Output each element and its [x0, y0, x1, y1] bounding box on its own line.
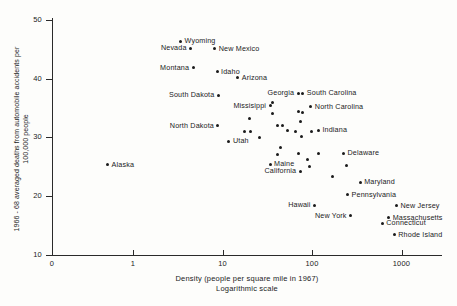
data-point-unlabeled-19 — [306, 158, 309, 161]
data-point-unlabeled-0 — [271, 101, 274, 104]
data-point-indiana — [317, 129, 320, 132]
x-tick-1000 — [402, 250, 403, 256]
x-axis-title: Density (people per square mile in 1967)… — [52, 274, 442, 294]
data-point-north-dakota — [216, 124, 219, 127]
data-point-utah — [227, 140, 230, 143]
point-label-new-mexico: New Mexico — [219, 44, 260, 53]
data-point-georgia — [297, 92, 300, 95]
data-point-unlabeled-3 — [271, 112, 274, 115]
point-label-north-dakota: North Dakota — [0, 121, 214, 130]
point-label-wyoming: Wyoming — [185, 36, 216, 45]
y-tick-label-10: 10 — [22, 250, 42, 259]
data-point-delaware — [342, 152, 345, 155]
data-point-arizona — [236, 76, 239, 79]
data-point-unlabeled-18 — [317, 152, 320, 155]
x-tick-label-100: 100 — [297, 259, 327, 268]
point-label-montana: Montana — [0, 63, 189, 72]
x-tick-10 — [223, 250, 224, 256]
data-point-idaho — [216, 70, 219, 73]
data-point-unlabeled-7 — [281, 124, 284, 127]
point-label-arizona: Arizona — [242, 73, 267, 82]
data-point-unlabeled-14 — [258, 136, 261, 139]
data-point-unlabeled-15 — [279, 146, 282, 149]
data-point-pennsylvania — [346, 193, 349, 196]
x-tick-label-1000: 1000 — [387, 259, 417, 268]
y-tick-10 — [46, 255, 53, 256]
y-tick-30 — [46, 137, 53, 138]
data-point-montana — [192, 66, 195, 69]
data-point-unlabeled-22 — [331, 175, 334, 178]
x-tick-label-10: 10 — [208, 259, 238, 268]
x-tick-label-1: 1 — [118, 259, 148, 268]
data-point-unlabeled-6 — [276, 124, 279, 127]
point-label-delaware: Delaware — [348, 148, 380, 157]
point-label-pennsylvania: Pennsylvania — [352, 190, 397, 199]
point-label-rhode-island: Rhode Island — [398, 230, 442, 239]
y-tick-label-50: 50 — [22, 15, 42, 24]
point-label-nevada: Nevada — [0, 43, 187, 52]
data-point-unlabeled-20 — [308, 165, 311, 168]
x-tick-1 — [133, 250, 134, 256]
data-point-unlabeled-1 — [297, 110, 300, 113]
data-point-unlabeled-21 — [345, 164, 348, 167]
point-label-south-carolina: South Carolina — [307, 88, 357, 97]
point-label-connecticut: Connecticut — [386, 218, 426, 227]
data-point-unlabeled-8 — [243, 130, 246, 133]
data-point-maryland — [359, 181, 362, 184]
data-point-south-carolina — [301, 92, 304, 95]
data-point-new-york — [349, 214, 352, 217]
data-point-new-jersey — [395, 204, 398, 207]
data-point-unlabeled-2 — [301, 111, 304, 114]
y-tick-50 — [46, 20, 53, 21]
data-point-unlabeled-13 — [300, 135, 303, 138]
scatter-plot: 5040302010 01101001000 1966 - 68 average… — [0, 0, 457, 306]
point-label-maryland: Maryland — [364, 177, 395, 186]
data-point-unlabeled-10 — [286, 129, 289, 132]
point-label-hawaii: Hawaii — [0, 200, 311, 209]
y-tick-40 — [46, 79, 53, 80]
data-point-unlabeled-9 — [249, 130, 252, 133]
data-point-unlabeled-4 — [248, 117, 251, 120]
data-point-unlabeled-16 — [276, 153, 279, 156]
data-point-nevada — [189, 47, 192, 50]
data-point-unlabeled-5 — [299, 120, 302, 123]
point-label-california: California — [0, 166, 296, 175]
x-tick-label-0: 0 — [37, 259, 67, 268]
point-label-new-jersey: New Jersey — [401, 201, 440, 210]
data-point-california — [299, 170, 302, 173]
data-point-unlabeled-12 — [310, 130, 313, 133]
data-point-hawaii — [313, 204, 316, 207]
data-point-north-carolina — [309, 105, 312, 108]
point-label-idaho: Idaho — [221, 67, 240, 76]
x-axis-line — [52, 255, 442, 256]
data-point-unlabeled-11 — [294, 130, 297, 133]
x-tick-100 — [312, 250, 313, 256]
point-label-georgia: Georgia — [0, 88, 294, 97]
point-label-indiana: Indiana — [322, 125, 347, 134]
y-tick-20 — [46, 196, 53, 197]
data-point-unlabeled-17 — [297, 152, 300, 155]
point-label-utah: Utah — [233, 136, 249, 145]
data-point-connecticut — [381, 222, 384, 225]
point-label-missisippi: Missisippi — [0, 101, 266, 110]
data-point-new-mexico — [213, 47, 216, 50]
data-point-missisippi — [269, 104, 272, 107]
point-label-new-york: New York — [0, 211, 347, 220]
x-axis-title-sub: Logarithmic scale — [52, 284, 442, 294]
point-label-north-carolina: North Carolina — [315, 102, 363, 111]
data-point-rhode-island — [393, 233, 396, 236]
x-axis-title-main: Density (people per square mile in 1967) — [52, 274, 442, 284]
